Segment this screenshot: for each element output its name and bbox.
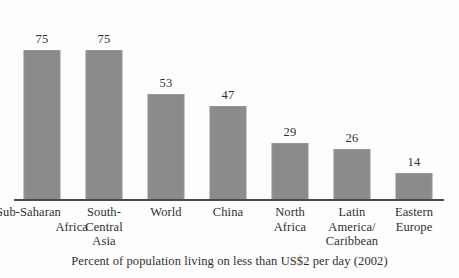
bar-value-label: 14 — [408, 156, 421, 169]
category-label-line: America/ — [321, 220, 383, 235]
category-label-line: Europe — [383, 220, 445, 235]
category-label-line: Caribbean — [321, 234, 383, 249]
category-label-line: China — [197, 205, 259, 220]
bar-group-sub-saharan-africa: 75 — [11, 0, 73, 201]
category-label-china: China — [197, 205, 259, 220]
category-label-line: South- — [73, 205, 135, 220]
category-label-line: Eastern — [383, 205, 445, 220]
category-axis-labels: Sub-Saharan Africa South- Central Asia W… — [0, 205, 459, 253]
bar-value-label: 29 — [284, 126, 297, 139]
category-label-line: Asia — [73, 234, 135, 249]
category-label-world: World — [135, 205, 197, 220]
bar-latin-america-caribbean — [334, 149, 371, 201]
bar-group-china: 47 — [197, 0, 259, 201]
plot-area: 75 75 53 47 29 26 14 — [0, 0, 459, 201]
category-label-line: World — [135, 205, 197, 220]
bar-value-label: 75 — [98, 33, 111, 46]
category-label-south-central-asia: South- Central Asia — [73, 205, 135, 249]
bar-sub-saharan-africa — [24, 50, 61, 201]
bar-north-africa — [272, 143, 309, 201]
bar-value-label: 53 — [160, 77, 173, 90]
bar-value-label: 26 — [346, 132, 359, 145]
category-label-line: Latin — [321, 205, 383, 220]
bar-group-eastern-europe: 14 — [383, 0, 445, 201]
category-label-line: Central — [73, 220, 135, 235]
bar-group-world: 53 — [135, 0, 197, 201]
chart-caption: Percent of population living on less tha… — [0, 254, 459, 269]
bar-south-central-asia — [86, 50, 123, 201]
bar-value-label: 75 — [36, 33, 49, 46]
x-axis-baseline — [14, 199, 444, 201]
bar-chart-figure: 75 75 53 47 29 26 14 — [0, 0, 459, 278]
bar-value-label: 47 — [222, 89, 235, 102]
category-label-eastern-europe: Eastern Europe — [383, 205, 445, 234]
category-label-line: Africa — [259, 220, 321, 235]
bar-china — [210, 106, 247, 201]
bar-eastern-europe — [396, 173, 433, 201]
bar-group-north-africa: 29 — [259, 0, 321, 201]
bar-group-south-central-asia: 75 — [73, 0, 135, 201]
bar-world — [148, 94, 185, 201]
category-label-latin-america-caribbean: Latin America/ Caribbean — [321, 205, 383, 249]
bar-group-latin-america-caribbean: 26 — [321, 0, 383, 201]
category-label-north-africa: North Africa — [259, 205, 321, 234]
category-label-line: North — [259, 205, 321, 220]
